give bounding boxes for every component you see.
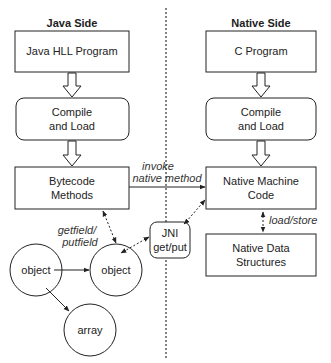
flow-arrow-native-1 <box>252 73 270 97</box>
load-store-label: load/store <box>269 214 317 226</box>
invoke-label-2: native method <box>132 172 202 184</box>
java-side-header: Java Side <box>47 17 98 29</box>
array-label: array <box>77 324 103 336</box>
native-compile-label-1: Compile <box>241 106 281 118</box>
java-compile-load-box <box>16 98 129 140</box>
data-structures-label-2: Structures <box>236 256 287 268</box>
jni-diagram: Java Side Native Side Java HLL Program C… <box>0 0 331 363</box>
bytecode-methods-box <box>15 167 129 209</box>
machine-code-label-1: Native Machine <box>223 175 299 187</box>
data-structures-label-1: Native Data <box>232 242 290 254</box>
native-side-header: Native Side <box>231 17 290 29</box>
flow-arrow-native-2 <box>252 141 270 166</box>
native-machine-code-box <box>206 167 316 209</box>
native-data-structures-box <box>206 234 316 276</box>
bytecode-label-1: Bytecode <box>49 175 95 187</box>
flow-arrow-java-2 <box>63 141 81 166</box>
getfield-label-2: putfield <box>61 236 98 248</box>
jni-label-2: get/put <box>153 241 187 253</box>
array-link-arrow <box>46 288 69 311</box>
jni-machine-arrow <box>186 200 205 222</box>
getfield-putfield-arrow <box>103 211 116 243</box>
jni-label-1: JNI <box>162 227 179 239</box>
object-a-label: object <box>21 264 50 276</box>
java-compile-label-1: Compile <box>52 106 92 118</box>
object-b-label: object <box>101 264 130 276</box>
getfield-label-1: getfield/ <box>58 224 97 236</box>
flow-arrow-java-1 <box>63 73 81 97</box>
machine-code-label-2: Code <box>248 189 274 201</box>
native-compile-load-box <box>206 98 316 140</box>
native-compile-label-2: and Load <box>238 120 284 132</box>
java-hll-program-label: Java HLL Program <box>26 45 117 57</box>
invoke-label-1: invoke <box>142 160 174 172</box>
java-compile-label-2: and Load <box>49 120 95 132</box>
bytecode-label-2: Methods <box>51 189 94 201</box>
c-program-label: C Program <box>234 45 287 57</box>
